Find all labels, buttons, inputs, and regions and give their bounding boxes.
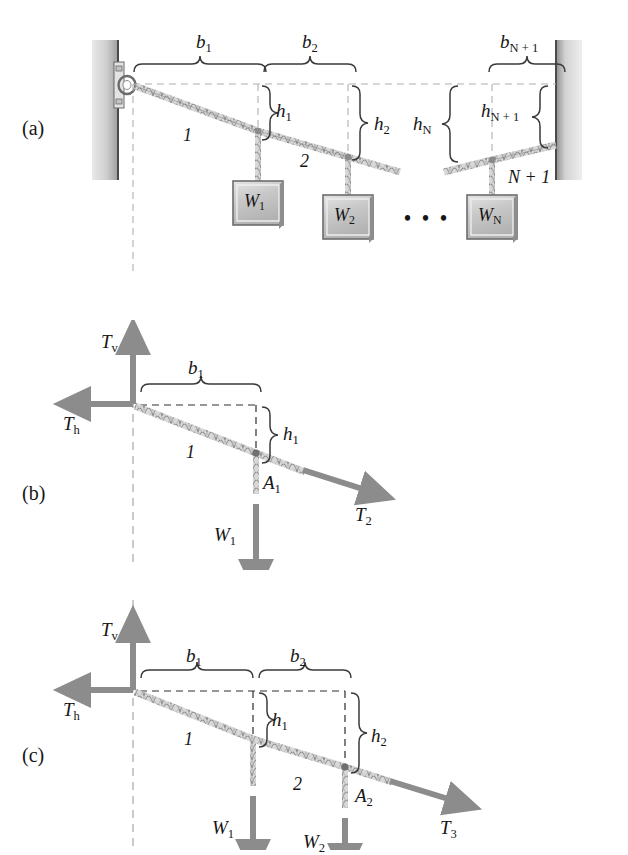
dim-label-h2-c: h2 [371,726,387,748]
dim-label-b1-c: b1 [186,646,202,668]
span-braces [134,56,565,72]
cable-segment-1-b [135,406,256,453]
weight-label-1-a: W1 [244,192,265,213]
dim-label-h2-a: h2 [374,114,390,136]
force-label-th-b: Th [63,414,80,436]
dim-label-bN1-a: bN + 1 [500,32,538,54]
node-label-a1-b: A1 [263,473,281,495]
arrow-t3-c [390,781,458,802]
segment-label-N1-a: N + 1 [508,168,550,186]
panel-c [0,600,628,850]
panel-b-canvas [0,320,628,570]
left-wall [92,40,118,180]
anchor-bracket [114,62,136,108]
force-label-w1-c: W1 [212,818,234,840]
dim-label-hN-a: hN [413,114,432,136]
panel-b-tag: (b) [22,483,45,503]
segment-label-2-a: 2 [300,152,309,170]
node-a1 [252,449,259,456]
node-label-a2-c: A2 [355,786,373,808]
dim-label-b2-c: b2 [290,646,306,668]
force-label-t3-c: T3 [440,818,457,840]
panel-b [0,320,628,570]
cable-segment-1-c [135,692,253,739]
force-label-tv-c: Tv [101,620,118,642]
panel-a-tag: (a) [22,118,44,138]
dim-label-b1-b: b1 [188,358,204,380]
ellipsis-a: • • • [404,208,450,228]
segment-label-1-a: 1 [183,126,192,144]
cable-stub-c [345,767,392,782]
arrow-t2-b [303,470,372,492]
dim-label-h1-c: h1 [272,710,288,732]
weight-label-2-a: W2 [334,206,355,227]
panel-c-tag: (c) [22,745,44,765]
dim-label-b1-a: b1 [196,32,212,54]
panel-c-canvas [0,600,628,850]
segment-label-1-b: 1 [186,443,195,461]
dim-label-h1-a: h1 [276,101,292,123]
dim-label-b2-a: b2 [302,32,318,54]
force-label-w1-b: W1 [214,525,236,547]
weight-label-N-a: WN [478,206,502,227]
right-wall [556,40,582,180]
dim-label-hN1-a: hN + 1 [481,101,519,123]
segment-label-1-c: 1 [184,730,193,748]
force-label-w2-c: W2 [303,832,325,854]
dim-label-h1-b: h1 [283,424,299,446]
force-label-t2-b: T2 [355,505,372,527]
force-label-tv-b: Tv [101,332,118,354]
node-a2 [341,763,348,770]
force-label-th-c: Th [63,700,80,722]
segment-label-2-c: 2 [293,775,302,793]
brace-h2-c [351,693,367,773]
